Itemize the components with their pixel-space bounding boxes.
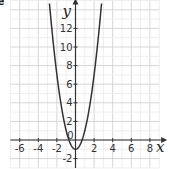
x-tick-label: -4 [33, 143, 43, 154]
x-tick-label: 6 [128, 143, 134, 154]
parabola-chart: -6-4-22468-2246810120xy [0, 0, 171, 169]
y-tick-label: 8 [66, 60, 72, 71]
y-tick-label: -2 [63, 153, 73, 164]
y-axis-label: y [62, 2, 72, 20]
y-tick-label: 6 [66, 79, 72, 90]
x-axis-label: x [156, 138, 165, 156]
x-tick-label: 2 [91, 143, 97, 154]
x-tick-label: -2 [52, 143, 62, 154]
y-tick-label: 2 [66, 116, 72, 127]
x-tick-label: 4 [110, 143, 116, 154]
y-tick-label: 10 [60, 42, 73, 53]
y-tick-label: 12 [60, 23, 73, 34]
y-tick-label: 4 [66, 97, 72, 108]
x-tick-label: -6 [15, 143, 25, 154]
x-tick-label: 8 [147, 143, 153, 154]
